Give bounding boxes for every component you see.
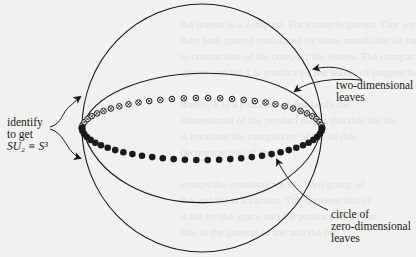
filled-dot-marker (139, 152, 146, 159)
filled-dot-marker (120, 149, 127, 156)
filled-dot-marker (98, 142, 105, 149)
outer-sphere (82, 4, 322, 252)
label-two-dim-line2: leaves (336, 91, 413, 103)
left-pole-dot (78, 124, 85, 131)
filled-dot-marker (129, 151, 136, 158)
filled-dot-marker (112, 147, 119, 154)
label-zero-dim-line1: circle of (331, 208, 411, 220)
filled-dot-marker (268, 151, 275, 158)
filled-dot-marker (300, 142, 307, 149)
label-zero-dimensional-leaves: circle of zero-dimensional leaves (331, 208, 411, 244)
right-pole-dot (318, 124, 325, 131)
inner-arc-upper (82, 73, 322, 128)
label-identify-line2: to get (7, 128, 48, 140)
filled-dot-marker (249, 154, 256, 161)
identify-arrow-lower-icon (50, 129, 80, 158)
equator-upper-open-circles (80, 95, 324, 128)
label-two-dimensional-leaves: two-dimensional leaves (336, 79, 413, 103)
label-identify-line1: identify (7, 116, 48, 128)
equator-lower-filled-dots (79, 128, 325, 164)
filled-dot-marker (104, 145, 111, 152)
label-zero-dim-line3: leaves (331, 232, 411, 244)
zero-dim-arrow-icon (277, 160, 328, 210)
identify-arrow-upper-icon (50, 97, 80, 127)
inner-arc-lower (82, 128, 322, 203)
label-zero-dim-line2: zero-dimensional (331, 220, 411, 232)
filled-dot-marker (216, 156, 223, 163)
filled-dot-marker (92, 139, 99, 146)
filled-dot-marker (170, 156, 177, 163)
filled-dot-marker (193, 157, 200, 164)
filled-dot-marker (204, 157, 211, 164)
filled-dot-marker (293, 145, 300, 152)
filled-dot-marker (238, 155, 245, 162)
filled-dot-marker (259, 152, 266, 159)
label-two-dim-line1: two-dimensional (336, 79, 413, 91)
label-identify: identify to get SU₂ ≡ S³ (7, 116, 48, 152)
filled-dot-marker (149, 154, 156, 161)
filled-dot-marker (160, 155, 167, 162)
filled-dot-marker (227, 156, 234, 163)
filled-dot-marker (286, 147, 293, 154)
filled-dot-marker (182, 156, 189, 163)
label-identify-math: SU₂ ≡ S³ (7, 140, 48, 152)
filled-dot-marker (277, 149, 284, 156)
